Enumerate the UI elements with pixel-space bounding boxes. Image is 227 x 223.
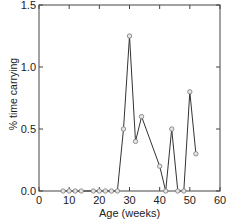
data-point-marker bbox=[67, 189, 71, 193]
data-line bbox=[63, 36, 196, 191]
data-point-marker bbox=[97, 189, 101, 193]
x-tick-label: 10 bbox=[63, 194, 75, 206]
data-point-marker bbox=[73, 189, 77, 193]
x-axis-label: Age (weeks) bbox=[39, 207, 220, 219]
data-point-marker bbox=[194, 152, 198, 156]
data-point-marker bbox=[109, 189, 113, 193]
y-tick-label: 0.0 bbox=[21, 185, 36, 197]
data-point-marker bbox=[182, 189, 186, 193]
x-tick-label: 30 bbox=[123, 194, 135, 206]
y-tick-label: 0.5 bbox=[21, 123, 36, 135]
y-tick-label: 1.0 bbox=[21, 61, 36, 73]
data-point-marker bbox=[103, 189, 107, 193]
data-point-marker bbox=[170, 127, 174, 131]
data-point-marker bbox=[115, 189, 119, 193]
x-tick-label: 40 bbox=[154, 194, 166, 206]
x-tick-label: 60 bbox=[214, 194, 226, 206]
plot-frame bbox=[39, 5, 220, 191]
x-tick-label: 50 bbox=[184, 194, 196, 206]
data-point-marker bbox=[139, 114, 143, 118]
data-point-marker bbox=[188, 90, 192, 94]
data-point-marker bbox=[61, 189, 65, 193]
data-point-marker bbox=[127, 34, 131, 38]
data-point-marker bbox=[164, 189, 168, 193]
data-point-marker bbox=[91, 189, 95, 193]
y-axis-label: % time carrying bbox=[7, 49, 19, 139]
x-tick-label: 20 bbox=[93, 194, 105, 206]
data-point-marker bbox=[133, 139, 137, 143]
data-point-marker bbox=[79, 189, 83, 193]
data-point-marker bbox=[157, 164, 161, 168]
line-chart: 01020304050600.00.51.01.5 % time carryin… bbox=[0, 0, 227, 223]
data-point-marker bbox=[121, 127, 125, 131]
data-point-marker bbox=[176, 189, 180, 193]
y-tick-label: 1.5 bbox=[21, 0, 36, 11]
plot-area: 01020304050600.00.51.01.5 bbox=[0, 0, 227, 223]
x-tick-label: 0 bbox=[36, 194, 42, 206]
